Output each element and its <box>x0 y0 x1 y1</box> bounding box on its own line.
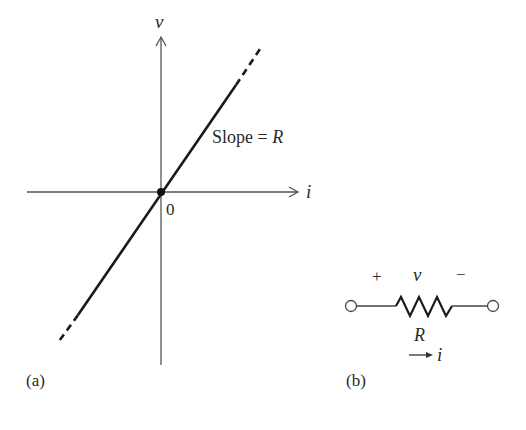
resistor-circuit: + v − R i (b) <box>346 264 499 390</box>
resistor-label: R <box>413 325 425 345</box>
panel-label-a: (a) <box>26 371 45 390</box>
voltage-label: v <box>413 264 422 285</box>
minus-sign: − <box>456 265 466 284</box>
plus-sign: + <box>372 267 382 286</box>
resistor-vi-figure: v i 0 Slope = R (a) + v − R i (b) <box>0 0 526 430</box>
vi-characteristic-plot: v i 0 Slope = R (a) <box>26 11 311 390</box>
slope-label-prefix: Slope = <box>212 127 272 147</box>
characteristic-line <box>78 85 236 315</box>
panel-label-b: (b) <box>346 371 366 390</box>
current-label: i <box>437 344 442 365</box>
origin-dot <box>157 188 165 196</box>
characteristic-line-dashed-lower <box>57 315 78 344</box>
current-arrowhead-icon <box>426 352 433 358</box>
slope-label-var: R <box>271 127 283 147</box>
left-terminal <box>346 301 357 312</box>
slope-label: Slope = R <box>212 127 283 147</box>
characteristic-line-dashed-upper <box>236 46 262 85</box>
i-axis-label: i <box>306 181 311 202</box>
v-axis-label: v <box>155 11 164 32</box>
origin-label: 0 <box>166 200 175 219</box>
resistor-zigzag-icon <box>396 297 452 316</box>
right-terminal <box>488 301 499 312</box>
